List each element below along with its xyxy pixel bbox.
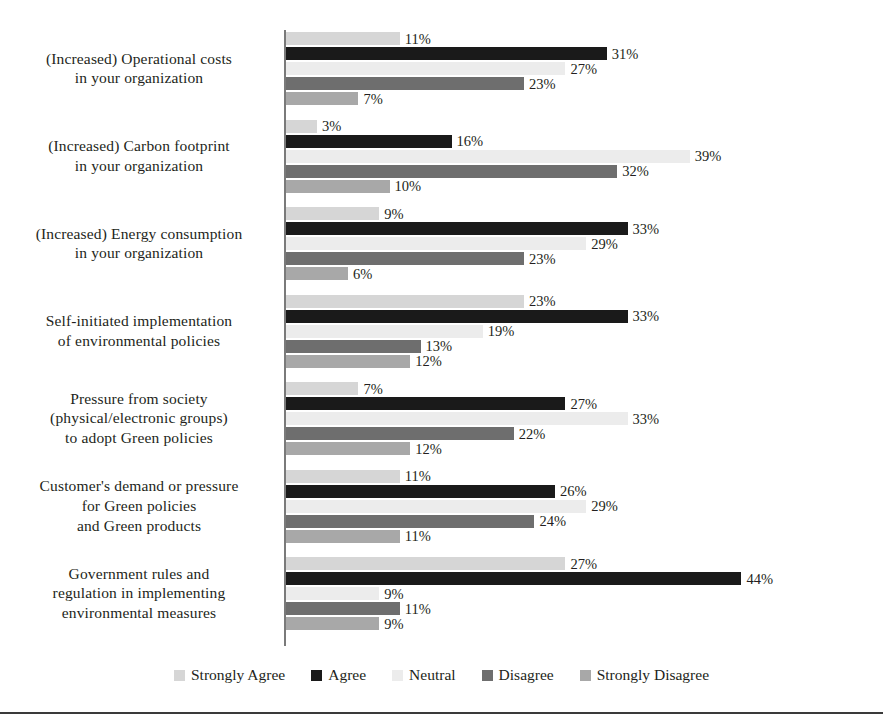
category-label-line: environmental measures [8,603,270,623]
bar-neutral [286,150,690,163]
category-label-line: regulation in implementing [8,583,270,603]
bar-value-label: 9% [379,615,403,632]
bar-strongly-agree [286,120,317,133]
bar-strongly-disagree [286,180,390,193]
category-label: (Increased) Carbon footprintin your orga… [8,136,270,176]
bar-value-label: 12% [410,353,442,370]
category-label-line: and Green products [8,516,270,536]
bar-value-label: 33% [628,308,660,325]
bar-strongly-disagree [286,355,410,368]
bar-value-label: 23% [524,75,556,92]
legend-label: Disagree [499,666,554,684]
legend-label: Neutral [409,666,455,684]
bar-disagree [286,427,514,440]
bar-value-label: 32% [617,163,649,180]
legend-swatch-icon [392,670,403,681]
bar-value-label: 11% [400,468,431,485]
legend-swatch-icon [174,670,185,681]
category-label-line: (Increased) Operational costs [8,49,270,69]
bar-value-label: 3% [317,118,341,135]
category-label: Customer's demand or pressurefor Green p… [8,476,270,535]
bar-value-label: 31% [607,45,639,62]
legend-item-strongly-disagree[interactable]: Strongly Disagree [580,666,709,684]
bar-strongly-disagree [286,530,400,543]
bar-value-label: 44% [741,570,773,587]
category-label-line: to adopt Green policies [8,428,270,448]
bar-disagree [286,515,534,528]
category-label-line: for Green policies [8,496,270,516]
bar-neutral [286,412,628,425]
bar-value-label: 27% [565,555,597,572]
legend-label: Strongly Agree [191,666,285,684]
bar-strongly-disagree [286,617,379,630]
bar-value-label: 6% [348,265,372,282]
bar-value-label: 39% [690,148,722,165]
bar-agree [286,135,452,148]
category-label: Government rules andregulation in implem… [8,564,270,623]
bar-neutral [286,500,586,513]
bar-strongly-disagree [286,442,410,455]
chart-legend: Strongly AgreeAgreeNeutralDisagreeStrong… [0,662,883,688]
category-label: Self-initiated implementationof environm… [8,311,270,351]
legend-item-disagree[interactable]: Disagree [482,666,554,684]
bar-value-label: 27% [565,395,597,412]
bar-value-label: 23% [524,250,556,267]
bar-strongly-agree [286,557,565,570]
category-label-line: in your organization [8,243,270,263]
bar-value-label: 19% [483,323,515,340]
legend-item-neutral[interactable]: Neutral [392,666,455,684]
bar-strongly-agree [286,295,524,308]
bar-disagree [286,252,524,265]
bar-strongly-agree [286,470,400,483]
bar-disagree [286,602,400,615]
legend-swatch-icon [580,670,591,681]
bar-value-label: 22% [514,425,546,442]
bar-value-label: 33% [628,220,660,237]
bar-value-label: 7% [358,380,382,397]
category-label-line: in your organization [8,156,270,176]
category-label: (Increased) Energy consumptionin your or… [8,224,270,264]
bar-disagree [286,340,421,353]
bar-value-label: 11% [400,30,431,47]
bar-agree [286,485,555,498]
bar-strongly-disagree [286,267,348,280]
bar-value-label: 10% [390,178,422,195]
category-label-line: (Increased) Carbon footprint [8,136,270,156]
legend-label: Strongly Disagree [597,666,709,684]
bar-value-label: 29% [586,235,618,252]
bar-neutral [286,237,586,250]
category-label-line: Self-initiated implementation [8,311,270,331]
bar-value-label: 11% [400,528,431,545]
bar-strongly-agree [286,382,358,395]
legend-item-agree[interactable]: Agree [311,666,366,684]
bar-neutral [286,587,379,600]
bar-value-label: 12% [410,440,442,457]
bar-neutral [286,325,483,338]
category-label-line: (physical/electronic groups) [8,408,270,428]
legend-swatch-icon [482,670,493,681]
bar-agree [286,47,607,60]
bar-value-label: 29% [586,498,618,515]
category-label: Pressure from society(physical/electroni… [8,389,270,448]
plot-area: (Increased) Operational costsin your org… [0,0,883,655]
category-label: (Increased) Operational costsin your org… [8,49,270,89]
bar-disagree [286,165,617,178]
legend-item-strongly-agree[interactable]: Strongly Agree [174,666,285,684]
bar-value-label: 23% [524,293,556,310]
category-label-line: Government rules and [8,564,270,584]
bar-value-label: 11% [400,600,431,617]
bar-value-label: 27% [565,60,597,77]
legend-label: Agree [328,666,366,684]
bar-agree [286,572,741,585]
bar-agree [286,310,628,323]
bar-strongly-disagree [286,92,358,105]
bar-neutral [286,62,565,75]
legend-swatch-icon [311,670,322,681]
bar-value-label: 9% [379,205,403,222]
category-label-line: Customer's demand or pressure [8,476,270,496]
bar-agree [286,222,628,235]
bar-strongly-agree [286,32,400,45]
bar-disagree [286,77,524,90]
bar-strongly-agree [286,207,379,220]
category-label-line: Pressure from society [8,389,270,409]
